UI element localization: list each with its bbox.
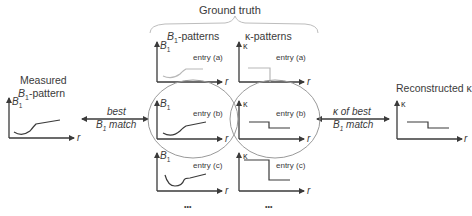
kappa-more-entries-ellipsis: ••• — [265, 203, 272, 210]
measured-pattern-suffix: -pattern — [29, 87, 65, 99]
b1-entry-b-label: entry (b) — [193, 109, 223, 118]
b1-entry-a-x-label: r — [225, 76, 228, 87]
b1-entry-a-y-label: B1 — [160, 40, 170, 53]
kappa-of-best-label-line1: κ of best — [333, 106, 371, 117]
measured-x-axis-label: r — [77, 132, 80, 143]
reconstructed-kappa-plot — [397, 101, 462, 139]
b1-entry-b-y-label: B1 — [160, 98, 170, 111]
kappa-entry-a-label: entry (a) — [276, 53, 306, 62]
kappa-entry-a-plot — [239, 42, 304, 82]
b1-entry-c-label: entry (c) — [193, 161, 222, 170]
best-match-label-line1: best — [107, 106, 126, 117]
kappa-entry-a-x-label: r — [307, 76, 310, 87]
measured-title-line1: Measured — [20, 74, 67, 86]
reconstructed-x-axis-label: r — [464, 133, 467, 144]
measured-y-axis-label: B1 — [12, 96, 22, 109]
b1-best-match-ellipse — [148, 80, 238, 158]
kappa-entry-b-y-label: κ — [243, 99, 248, 109]
kappa-entry-c-y-label: κ — [243, 151, 248, 161]
b1-patterns-heading: B1-patterns — [167, 30, 219, 44]
reconstructed-title: Reconstructed κ — [396, 82, 472, 94]
ground-truth-label: Ground truth — [199, 4, 261, 16]
kappa-entry-c-label: entry (c) — [276, 161, 305, 170]
measured-title-line2: B1-pattern — [18, 87, 65, 101]
b1-entry-b-x-label: r — [225, 133, 228, 144]
b1-entry-a-label: entry (a) — [193, 53, 223, 62]
kappa-entry-a-y-label: κ — [243, 41, 248, 51]
kappa-entry-b-label: entry (b) — [276, 109, 306, 118]
kappa-entry-c-x-label: r — [307, 185, 310, 196]
kappa-entry-c-plot — [239, 153, 304, 191]
kappa-patterns-heading: κ-patterns — [245, 30, 292, 42]
kappa-of-best-label-line2: B1 match — [333, 119, 373, 132]
reconstructed-y-axis-label: κ — [401, 99, 406, 109]
b1-more-entries-ellipsis: ••• — [184, 203, 191, 210]
b1-entry-c-y-label: B1 — [160, 150, 170, 163]
kappa-entry-b-plot — [239, 101, 304, 139]
b1-patterns-suffix: -patterns — [178, 30, 219, 42]
best-match-label-line2: B1 match — [96, 119, 136, 132]
b1-entry-c-x-label: r — [225, 185, 228, 196]
kappa-best-match-ellipse — [230, 80, 320, 158]
kappa-entry-b-x-label: r — [307, 133, 310, 144]
